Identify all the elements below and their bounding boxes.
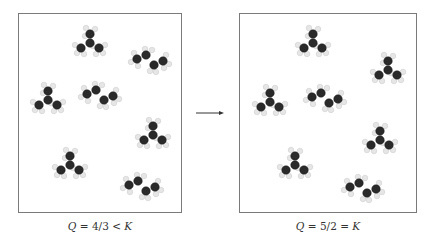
arrow-right-icon: [196, 108, 224, 118]
quotient-expression: = 5/2 =: [304, 220, 352, 232]
butane-molecule: [303, 84, 347, 113]
isobutane-molecule: [30, 82, 66, 114]
k-symbol: K: [352, 220, 360, 232]
isobutane-molecule: [370, 52, 406, 84]
butane-molecule: [128, 46, 172, 75]
equilibrium-quotient-label: Q = 5/2 = K: [239, 220, 417, 232]
butane-molecule: [78, 81, 122, 110]
quotient-expression: = 4/3 <: [76, 220, 124, 232]
k-symbol: K: [124, 220, 132, 232]
isobutane-molecule: [52, 147, 88, 179]
isobutane-molecule: [135, 117, 171, 149]
molecule-scene: [0, 0, 430, 242]
isobutane-molecule: [252, 84, 288, 116]
butane-molecule: [341, 174, 385, 203]
isobutane-molecule: [295, 25, 331, 57]
initial-quotient-label: Q = 4/3 < K: [18, 220, 182, 232]
butane-molecule: [120, 172, 164, 201]
isobutane-molecule: [362, 122, 398, 154]
isobutane-molecule: [277, 147, 313, 179]
isobutane-molecule: [72, 25, 108, 57]
